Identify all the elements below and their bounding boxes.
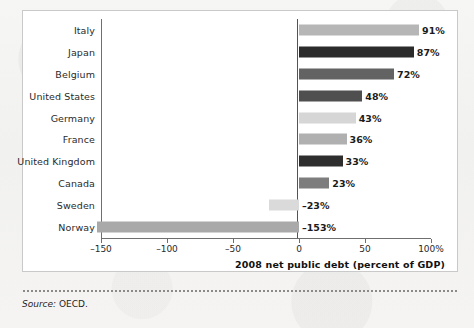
bar-row: Italy91% <box>23 19 459 41</box>
x-tick-label: 50 <box>359 244 370 254</box>
category-label: Belgium <box>55 68 95 79</box>
category-label: France <box>63 134 95 145</box>
bar-germany[interactable] <box>299 112 356 123</box>
bar-united-kingdom[interactable] <box>299 156 343 167</box>
x-tick-mark <box>431 239 432 243</box>
category-label: Norway <box>58 221 95 232</box>
chart-plot-area: Italy91%Japan87%Belgium72%United States4… <box>23 11 459 273</box>
x-tick-mark <box>101 239 102 243</box>
bar-value-label: 33% <box>346 156 369 167</box>
bar-row: Japan87% <box>23 41 459 63</box>
category-label: Germany <box>51 112 95 123</box>
bar-value-label: 87% <box>417 46 440 57</box>
bar-japan[interactable] <box>299 46 414 57</box>
x-tick-label: –150 <box>90 244 112 254</box>
category-label: Sweden <box>57 200 95 211</box>
bar-row: Belgium72% <box>23 63 459 85</box>
x-tick-label: –100 <box>156 244 178 254</box>
x-tick-mark <box>299 239 300 243</box>
source-note: Source: OECD. <box>22 299 88 309</box>
bar-value-label: 72% <box>397 68 420 79</box>
category-label: Italy <box>74 24 95 35</box>
bar-row: Canada23% <box>23 172 459 194</box>
bar-value-label: 43% <box>359 112 382 123</box>
footer-divider <box>22 290 458 292</box>
category-label: United Kingdom <box>17 156 95 167</box>
bar-value-label: 48% <box>365 90 388 101</box>
bar-row: United Kingdom33% <box>23 150 459 172</box>
x-tick-label: 0 <box>296 244 302 254</box>
x-tick-label: 100% <box>418 244 444 254</box>
bar-row: United States48% <box>23 85 459 107</box>
category-label: United States <box>29 90 95 101</box>
bar-value-label: 23% <box>332 178 355 189</box>
bar-row: Norway–153% <box>23 216 459 238</box>
bar-value-label: 36% <box>350 134 373 145</box>
bar-belgium[interactable] <box>299 68 394 79</box>
bar-canada[interactable] <box>299 178 329 189</box>
bar-value-label: –23% <box>302 200 330 211</box>
bar-value-label: –153% <box>302 221 336 232</box>
bar-rows: Italy91%Japan87%Belgium72%United States4… <box>23 19 459 238</box>
bar-france[interactable] <box>299 134 347 145</box>
x-axis-title: 2008 net public debt (percent of GDP) <box>235 259 445 270</box>
category-label: Japan <box>68 46 95 57</box>
x-tick-mark <box>365 239 366 243</box>
figure-frame: Italy91%Japan87%Belgium72%United States4… <box>22 10 458 272</box>
value-axis-line <box>101 238 431 239</box>
x-tick-mark <box>233 239 234 243</box>
bar-italy[interactable] <box>299 24 419 35</box>
bar-row: Germany43% <box>23 107 459 129</box>
bar-united-states[interactable] <box>299 90 362 101</box>
bar-sweden[interactable] <box>269 200 299 211</box>
bar-norway[interactable] <box>97 221 299 232</box>
x-tick-label: –50 <box>225 244 241 254</box>
category-label: Canada <box>58 178 95 189</box>
bar-row: France36% <box>23 128 459 150</box>
source-label: Source: <box>22 299 56 309</box>
bar-value-label: 91% <box>422 24 445 35</box>
x-tick-mark <box>167 239 168 243</box>
bar-row: Sweden–23% <box>23 194 459 216</box>
source-value: OECD. <box>59 299 88 309</box>
